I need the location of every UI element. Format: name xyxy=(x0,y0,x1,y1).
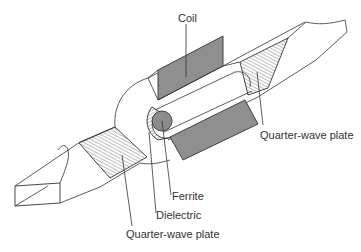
label-ferrite: Ferrite xyxy=(172,190,204,202)
label-coil: Coil xyxy=(178,12,197,24)
label-quarter-wave-plate-right: Quarter-wave plate xyxy=(260,129,354,141)
label-quarter-wave-plate-left: Quarter-wave plate xyxy=(126,228,220,240)
label-dielectric: Dielectric xyxy=(156,209,202,221)
coil-upper xyxy=(148,36,223,100)
left-quarter-wave-plate xyxy=(79,127,147,178)
right-quarter-wave-plate xyxy=(240,38,288,95)
ferrite-device-diagram: Coil Quarter-wave plate Ferrite Dielectr… xyxy=(0,0,361,252)
